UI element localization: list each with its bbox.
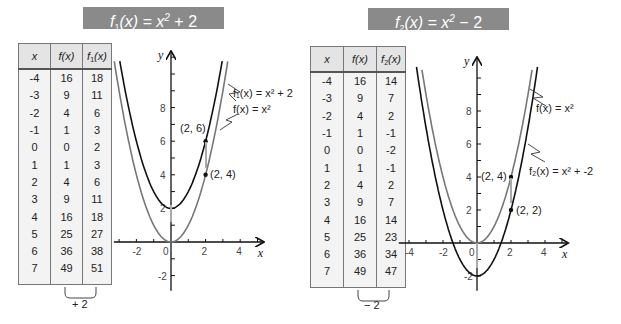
x-tick-label: 2 (202, 246, 208, 257)
graphs-canvas: -20248642-2yxf₁(x) = x² + 2f(x) = x²(2, … (0, 0, 621, 324)
label-f2: f₂(x) = x² + -2 (529, 165, 593, 177)
left-brace (65, 287, 96, 298)
x-tick-label: 4 (541, 247, 547, 258)
x-tick-label: 0 (163, 246, 169, 257)
y-tick-label: 4 (160, 170, 166, 181)
x-tick-label: -4 (405, 247, 414, 258)
y-tick-label: 8 (160, 103, 166, 114)
y-tick-label: 8 (466, 106, 472, 117)
y-tick-label: -2 (158, 271, 167, 282)
left-graph: -20248642-2yxf₁(x) = x² + 2f(x) = x²(2, … (114, 48, 293, 291)
label-f1: f₁(x) = x² + 2 (233, 87, 293, 99)
right-graph: -4-20248642-2yxf(x) = x²f₂(x) = x² + -2(… (399, 54, 593, 291)
point-marker (509, 208, 513, 212)
x-tick-label: 2 (507, 247, 513, 258)
point-label-2-4: (2, 4) (481, 170, 507, 182)
leader-line (220, 114, 238, 130)
x-tick-label: -2 (132, 246, 141, 257)
point-label-2-6: (2, 6) (180, 122, 206, 134)
y-tick-label: 4 (466, 172, 472, 183)
y-tick-label: 2 (466, 205, 472, 216)
x-tick-label: -2 (439, 247, 448, 258)
point-marker (203, 173, 207, 177)
x-tick-label: 4 (236, 246, 242, 257)
y-tick-label: 6 (160, 136, 166, 147)
label-f: f(x) = x² (233, 103, 271, 115)
right-brace (358, 290, 389, 301)
x-axis-label: x (257, 246, 264, 260)
y-axis-label: y (463, 54, 470, 68)
x-tick-label: 0 (469, 247, 475, 258)
point-label-2-4: (2, 4) (210, 168, 236, 180)
x-axis-label: x (561, 247, 568, 261)
point-label-2-2: (2, 2) (516, 204, 542, 216)
leader-line (528, 144, 545, 162)
y-axis-label: y (157, 48, 164, 62)
y-tick-label: 6 (466, 139, 472, 150)
